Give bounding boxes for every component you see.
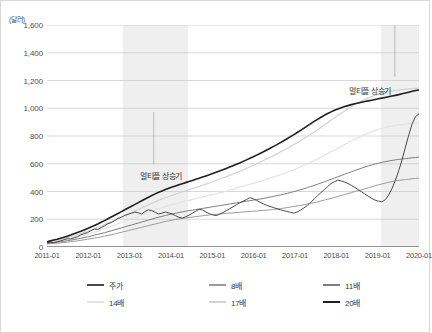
x-tick-label: 2011-01 [34, 251, 59, 260]
legend-swatch-icon [323, 301, 340, 304]
legend-item[interactable]: 주가 [87, 279, 123, 291]
legend-item[interactable]: 17배 [209, 296, 246, 308]
y-axis-tick-labels: 02004006008001,0001,2001,4001,600 [1, 25, 43, 247]
x-tick-label: 2019-01 [365, 251, 391, 260]
y-tick-label: 1,600 [3, 21, 43, 30]
y-tick-label: 1,200 [3, 76, 43, 85]
legend-swatch-icon [87, 301, 104, 303]
y-tick-label: 800 [3, 132, 43, 141]
legend-item[interactable]: 8배 [209, 279, 242, 291]
x-tick-label: 2017-01 [282, 251, 308, 260]
x-tick-label: 2018-01 [323, 251, 349, 260]
x-tick-label: 2015-01 [199, 251, 225, 260]
legend-item[interactable]: 20배 [323, 296, 360, 308]
plot-area [47, 25, 419, 247]
annotation-multiple-rise-left: 멀티플 상승기 [140, 170, 182, 181]
legend-swatch-icon [209, 301, 226, 303]
legend-label: 20배 [345, 297, 360, 308]
legend-swatch-icon [87, 284, 104, 286]
legend-label: 14배 [109, 297, 124, 308]
y-tick-label: 1,400 [3, 48, 43, 57]
annotation-multiple-rise-right: 멀티플 상승기 [349, 85, 391, 96]
x-tick-label: 2020-01 [406, 251, 432, 260]
y-tick-label: 600 [3, 159, 43, 168]
y-tick-label: 1,000 [3, 104, 43, 113]
gridlines-group [47, 25, 419, 219]
legend-item[interactable]: 11배 [323, 279, 360, 291]
x-tick-label: 2013-01 [117, 251, 143, 260]
line-chart-svg [47, 25, 419, 247]
legend-label: 8배 [231, 280, 242, 291]
x-tick-label: 2014-01 [158, 251, 184, 260]
legend-label: 17배 [231, 297, 246, 308]
legend-label: 주가 [109, 280, 123, 291]
y-tick-label: 400 [3, 187, 43, 196]
chart-legend: 주가8배11배14배17배20배 [47, 279, 419, 313]
legend-item[interactable]: 14배 [87, 296, 124, 308]
x-tick-label: 2016-01 [241, 251, 267, 260]
x-axis-tick-labels: 2011-012012-012013-012014-012015-012016-… [47, 251, 419, 265]
x-tick-label: 2012-01 [75, 251, 101, 260]
legend-label: 11배 [345, 280, 360, 291]
legend-swatch-icon [323, 284, 340, 286]
y-tick-label: 200 [3, 215, 43, 224]
series-group [47, 88, 419, 244]
legend-swatch-icon [209, 284, 226, 286]
